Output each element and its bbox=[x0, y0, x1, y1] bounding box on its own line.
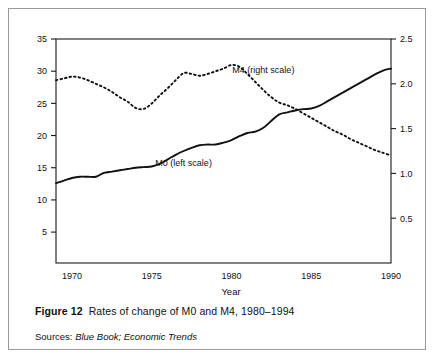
left-tick-label: 5 bbox=[42, 227, 47, 237]
series-annotation-m4: M4 (right scale) bbox=[232, 65, 294, 75]
figure-number: Figure 12 bbox=[35, 305, 83, 317]
x-tick-label: 1975 bbox=[142, 271, 162, 281]
right-axis-ticks: 0.51.01.52.02.5 bbox=[391, 34, 413, 223]
left-tick-label: 10 bbox=[37, 195, 47, 205]
x-tick-label: 1970 bbox=[62, 271, 82, 281]
left-tick-label: 35 bbox=[37, 34, 47, 44]
right-tick-label: 0.5 bbox=[400, 214, 413, 224]
x-axis-ticks: 19701975198019851990 bbox=[62, 271, 401, 281]
left-tick-label: 20 bbox=[37, 131, 47, 141]
figure-sources: Sources: Blue Book; Economic Trends bbox=[35, 331, 415, 342]
sources-label: Sources: bbox=[35, 331, 73, 342]
right-tick-label: 2.5 bbox=[400, 34, 413, 44]
left-tick-label: 15 bbox=[37, 163, 47, 173]
figure-caption-text: Rates of change of M0 and M4, 1980–1994 bbox=[89, 305, 295, 317]
line-chart: 5101520253035 0.51.01.52.02.5 1970197519… bbox=[9, 9, 427, 301]
left-tick-label: 25 bbox=[37, 99, 47, 109]
x-axis-title: Year bbox=[221, 286, 240, 297]
figure-box: 5101520253035 0.51.01.52.02.5 1970197519… bbox=[8, 8, 426, 350]
left-axis-ticks: 5101520253035 bbox=[37, 34, 56, 237]
x-tick-label: 1980 bbox=[221, 271, 241, 281]
chart-container: 5101520253035 0.51.01.52.02.5 1970197519… bbox=[9, 9, 427, 301]
sources-value: Blue Book; Economic Trends bbox=[75, 331, 197, 342]
figure-page: 5101520253035 0.51.01.52.02.5 1970197519… bbox=[0, 0, 443, 358]
x-tick-label: 1985 bbox=[301, 271, 321, 281]
right-tick-label: 2.0 bbox=[400, 79, 413, 89]
right-tick-label: 1.5 bbox=[400, 124, 413, 134]
right-tick-label: 1.0 bbox=[400, 169, 413, 179]
left-tick-label: 30 bbox=[37, 66, 47, 76]
series-line-m0 bbox=[56, 69, 391, 184]
series-annotation-m0: M0 (left scale) bbox=[155, 158, 212, 168]
figure-caption: Figure 12 Rates of change of M0 and M4, … bbox=[35, 305, 415, 317]
plot-frame bbox=[56, 39, 391, 263]
x-tick-label: 1990 bbox=[381, 271, 401, 281]
